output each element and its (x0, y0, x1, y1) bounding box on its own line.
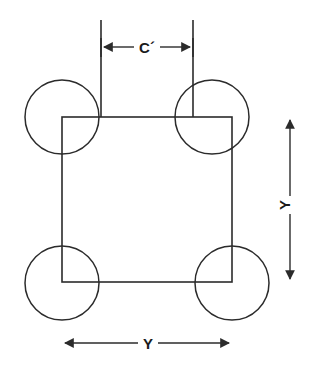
top-dimension-label: C´ (139, 39, 155, 56)
diagram-canvas: C´ Y Y (0, 0, 309, 367)
right-dimension-label: Y (276, 200, 293, 210)
technical-diagram: C´ Y Y (0, 0, 309, 367)
bottom-dimension-label: Y (143, 335, 153, 352)
